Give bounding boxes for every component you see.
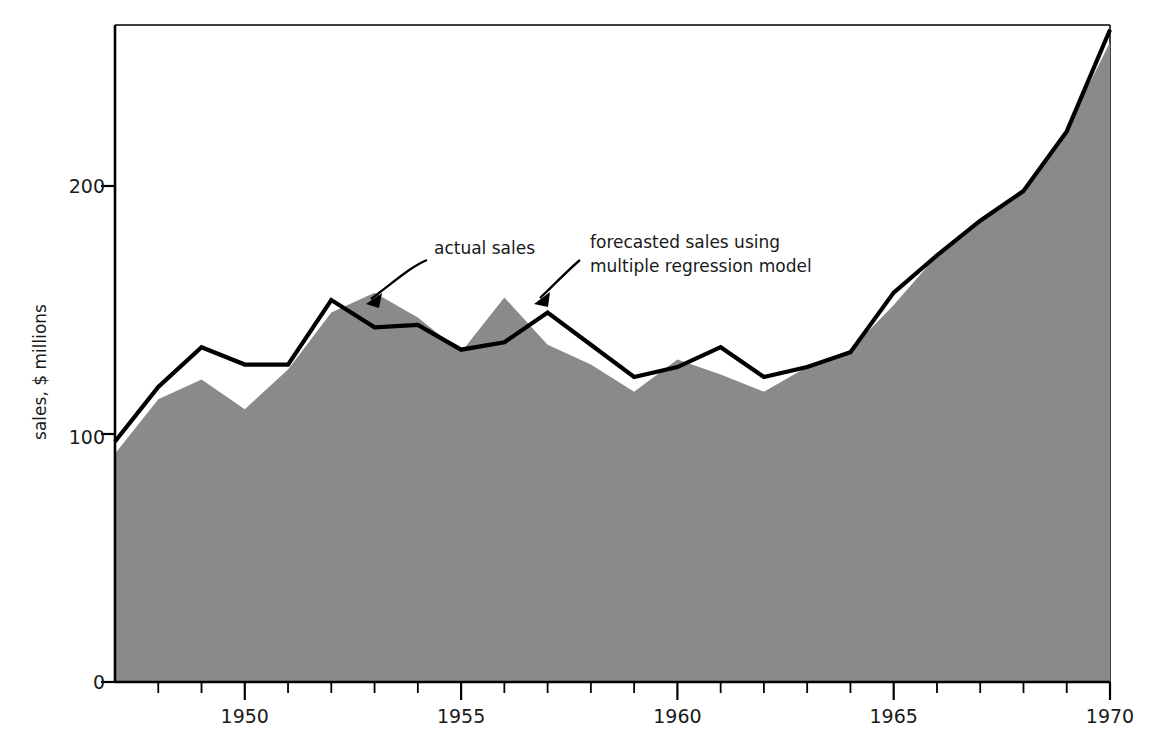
annotation-actual-sales-label: actual sales: [434, 238, 535, 258]
y-axis: 200 100 0 sales, $ millions: [30, 25, 115, 693]
y-axis-title: sales, $ millions: [30, 304, 50, 440]
annotation-forecasted-sales: forecasted sales using multiple regressi…: [534, 232, 812, 307]
figure-container: 200 100 0 sales, $ millions 195019551960…: [0, 0, 1152, 756]
annotation-forecasted-sales-label-line2: multiple regression model: [590, 256, 812, 276]
forecasted-sales-arrow-line: [540, 260, 580, 298]
forecasted-sales-arrow-head: [534, 292, 550, 307]
x-tick-label-1955: 1955: [437, 705, 485, 727]
x-tick-label-1950: 1950: [221, 705, 269, 727]
y-tick-label-0: 0: [93, 671, 105, 693]
sales-forecast-chart: 200 100 0 sales, $ millions 195019551960…: [0, 0, 1152, 756]
x-axis-tick-labels: 19501955196019651970: [221, 705, 1135, 727]
x-axis-ticks: [158, 682, 1110, 700]
y-tick-label-200: 200: [69, 175, 105, 197]
x-tick-label-1970: 1970: [1086, 705, 1134, 727]
x-axis: 19501955196019651970: [115, 682, 1134, 727]
annotation-actual-sales: actual sales: [366, 238, 535, 308]
x-tick-label-1965: 1965: [870, 705, 918, 727]
y-tick-label-100: 100: [69, 426, 105, 448]
annotation-forecasted-sales-label-line1: forecasted sales using: [590, 232, 780, 252]
actual-sales-arrow-line: [371, 260, 427, 299]
x-tick-label-1960: 1960: [653, 705, 701, 727]
